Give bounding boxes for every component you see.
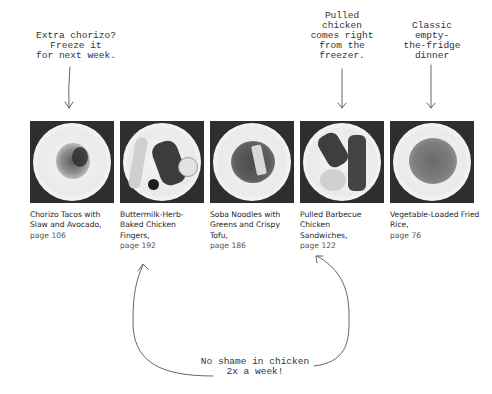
arrows-layer (0, 0, 492, 394)
arrow-down-icon (427, 65, 435, 108)
curved-arrow-icon (314, 256, 349, 366)
arrow-down-icon (65, 67, 73, 108)
arrow-down-icon (338, 69, 346, 108)
curved-arrow-icon (133, 264, 213, 376)
